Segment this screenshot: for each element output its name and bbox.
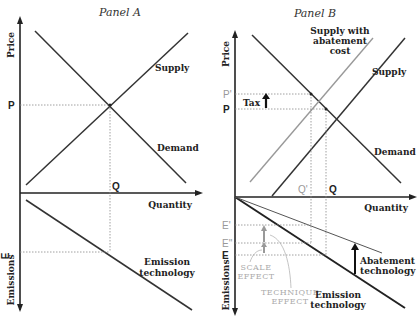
q-prime-marker: Q' — [298, 184, 308, 195]
arrow-down-icon — [232, 308, 238, 316]
p-marker: P — [223, 104, 230, 115]
panel-a-demand-curve — [35, 31, 186, 183]
equilibrium-point — [325, 108, 328, 111]
panel-a-emission-label-2: technology — [139, 268, 195, 278]
panel-a-quantity-label: Quantity — [148, 200, 192, 210]
panel-b-supply-abatement-curve — [250, 38, 373, 182]
panel-b-quantity-label: Quantity — [364, 203, 408, 213]
panel-a-supply-curve — [26, 33, 188, 185]
panel-a-emissions-label: Emissions — [6, 255, 16, 306]
tax-label: Tax — [243, 98, 261, 108]
supply-abatement-label-3: cost — [330, 46, 352, 56]
diagram-canvas: Panel A Price Emissions Quantity P Q E S… — [0, 0, 420, 318]
panel-b-emission-label-1: Emission — [315, 290, 361, 300]
panel-b-title: Panel B — [293, 7, 336, 20]
p-marker: P — [8, 100, 15, 111]
arrow-down-icon — [17, 304, 23, 312]
q-marker: Q — [329, 184, 337, 195]
panel-b-supply-curve — [272, 38, 405, 196]
panel-a-emission-curve — [26, 200, 192, 310]
arrow-right-icon — [195, 190, 203, 196]
e-marker: E — [222, 250, 229, 261]
equilibrium-point-prime — [310, 93, 313, 96]
e-marker: E — [0, 252, 11, 259]
panel-a-title: Panel A — [98, 6, 141, 19]
panel-b-price-label: Price — [221, 41, 231, 67]
panel-b-demand-label: Demand — [374, 147, 416, 157]
panel-b-supply-label: Supply — [372, 67, 407, 77]
panel-b-emission-label-2: technology — [310, 300, 366, 310]
panel-b-emissions-label: Emissions — [221, 260, 231, 311]
e-prime-marker: E' — [222, 220, 231, 231]
q-marker: Q — [112, 181, 120, 192]
abatement-label-1: Abatement — [359, 256, 416, 266]
panel-a-price-label: Price — [6, 32, 16, 58]
arrow-up-icon — [261, 225, 267, 231]
supply-abatement-label-2: abatement — [313, 36, 368, 46]
technique-effect-label-1: TECHNIQUE — [261, 288, 319, 297]
supply-abatement-label-1: Supply with — [310, 26, 370, 36]
scale-effect-label-2: EFFECT — [237, 272, 274, 281]
equilibrium-point — [108, 103, 111, 106]
panel-b: Panel B Price Emissions Quantity P' P — [221, 7, 417, 316]
panel-a-supply-label: Supply — [155, 63, 190, 73]
p-prime-marker: P' — [223, 89, 232, 100]
technique-effect-label-2: EFFECT — [271, 297, 308, 306]
scale-effect-pointer — [250, 250, 262, 262]
abatement-label-2: technology — [360, 266, 416, 276]
scale-effect-label-1: SCALE — [240, 263, 271, 272]
panel-a: Panel A Price Emissions Quantity P Q E S… — [0, 6, 203, 312]
arrow-right-icon — [409, 194, 417, 200]
arrow-up-icon — [17, 16, 23, 24]
e-double-prime-marker: E'' — [222, 238, 233, 249]
panel-a-emission-label-1: Emission — [144, 257, 190, 267]
panel-a-demand-label: Demand — [157, 143, 199, 153]
arrow-up-icon — [232, 30, 238, 38]
